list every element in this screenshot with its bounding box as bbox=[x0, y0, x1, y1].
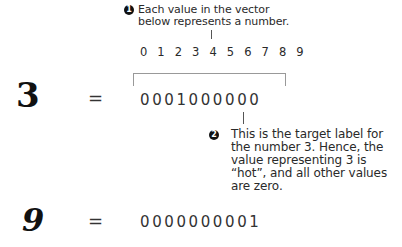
callout-2-pointer bbox=[243, 112, 244, 124]
callout-1-line-2: below represents a number. bbox=[138, 16, 289, 28]
index-digits-row: 0 1 2 3 4 5 6 7 8 9 bbox=[140, 45, 307, 59]
vector-bracket bbox=[133, 73, 286, 86]
handwritten-digit-3: 3 bbox=[16, 78, 40, 112]
equals-sign-2: = bbox=[88, 210, 103, 231]
callout-1-line-1: Each value in the vector bbox=[138, 4, 289, 16]
one-hot-vector-3: 0001000000 bbox=[140, 91, 261, 109]
equals-sign-1: = bbox=[88, 87, 103, 108]
callout-1-badge: 1 bbox=[124, 5, 134, 15]
callout-1-text: Each value in the vector below represent… bbox=[138, 4, 289, 27]
one-hot-vector-9: 0000000001 bbox=[140, 213, 261, 231]
handwritten-digit-9: 9 bbox=[22, 204, 44, 236]
callout-2-badge: 2 bbox=[209, 130, 219, 140]
callout-1-pointer bbox=[211, 30, 212, 39]
callout-2-line-5: are zero. bbox=[231, 180, 387, 193]
callout-2-text: This is the target label for the number … bbox=[231, 128, 387, 193]
